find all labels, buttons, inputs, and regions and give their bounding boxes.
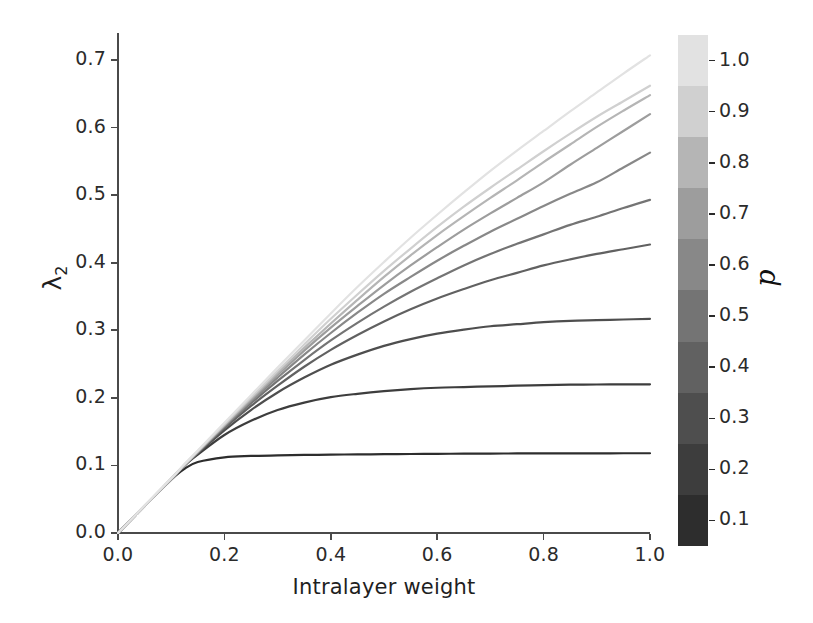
colorbar-band (678, 342, 708, 393)
y-axis-label-base: λ (38, 276, 67, 291)
y-tick-mark (111, 329, 117, 331)
colorbar-tick-label: 0.2 (719, 456, 750, 478)
colorbar-band (678, 239, 708, 290)
colorbar-tick-mark (709, 264, 715, 266)
colorbar-tick-mark (709, 418, 715, 420)
x-tick-mark (117, 534, 119, 540)
line-series (118, 95, 650, 533)
x-axis-label: Intralayer weight (118, 575, 650, 599)
x-tick-label: 0.0 (88, 543, 148, 565)
colorbar-tick-mark (709, 60, 715, 62)
x-tick-mark (543, 534, 545, 540)
colorbar-tick-label: 0.4 (719, 354, 750, 376)
y-tick-mark (111, 127, 117, 129)
line-series (118, 384, 650, 533)
colorbar-band (678, 35, 708, 86)
colorbar-tick-label: 0.3 (719, 405, 750, 427)
colorbar-tick-label: 0.9 (719, 99, 750, 121)
colorbar-tick-label: 0.8 (719, 150, 750, 172)
colorbar-tick-label: 0.6 (719, 252, 750, 274)
y-tick-mark (111, 194, 117, 196)
y-tick-mark (111, 397, 117, 399)
line-series (118, 153, 650, 533)
colorbar-tick-mark (709, 520, 715, 522)
x-tick-label: 0.4 (301, 543, 361, 565)
line-series (118, 114, 650, 533)
colorbar-tick-mark (709, 366, 715, 368)
colorbar-tick-label: 0.7 (719, 201, 750, 223)
y-tick-label: 0.2 (52, 385, 106, 407)
y-axis-label: λ2 (38, 218, 71, 338)
colorbar-tick-label: 0.1 (719, 507, 750, 529)
y-tick-label: 0.1 (52, 452, 106, 474)
x-tick-label: 0.2 (194, 543, 254, 565)
colorbar-band (678, 495, 708, 546)
figure-canvas: 0.00.10.20.30.40.50.60.7 0.00.20.40.60.8… (0, 0, 813, 623)
colorbar-band (678, 137, 708, 188)
y-tick-label: 0.6 (52, 115, 106, 137)
colorbar-tick-label: 0.5 (719, 303, 750, 325)
colorbar-tick-mark (709, 213, 715, 215)
y-tick-mark (111, 59, 117, 61)
colorbar-band (678, 444, 708, 495)
line-series (118, 200, 650, 533)
plot-area (118, 33, 650, 533)
y-tick-mark (111, 465, 117, 467)
line-series (118, 453, 650, 533)
x-tick-mark (649, 534, 651, 540)
x-tick-label: 1.0 (620, 543, 680, 565)
y-tick-label: 0.0 (52, 520, 106, 542)
y-axis-label-subscript: 2 (52, 266, 71, 276)
x-tick-label: 0.6 (407, 543, 467, 565)
colorbar-label: p (750, 243, 781, 313)
line-series (118, 319, 650, 533)
line-series (118, 86, 650, 533)
colorbar-tick-mark (709, 315, 715, 317)
colorbar-tick-mark (709, 162, 715, 164)
colorbar (678, 35, 708, 546)
x-tick-mark (436, 534, 438, 540)
line-series-group (118, 33, 650, 533)
colorbar-tick-mark (709, 111, 715, 113)
colorbar-band (678, 290, 708, 341)
colorbar-band (678, 393, 708, 444)
colorbar-tick-label: 1.0 (719, 48, 750, 70)
colorbar-tick-mark (709, 469, 715, 471)
x-tick-mark (224, 534, 226, 540)
y-tick-label: 0.7 (52, 47, 106, 69)
x-tick-label: 0.8 (514, 543, 574, 565)
x-tick-mark (330, 534, 332, 540)
y-tick-mark (111, 532, 117, 534)
colorbar-band (678, 188, 708, 239)
y-tick-label: 0.5 (52, 182, 106, 204)
y-tick-mark (111, 262, 117, 264)
line-series (118, 244, 650, 533)
colorbar-band (678, 86, 708, 137)
